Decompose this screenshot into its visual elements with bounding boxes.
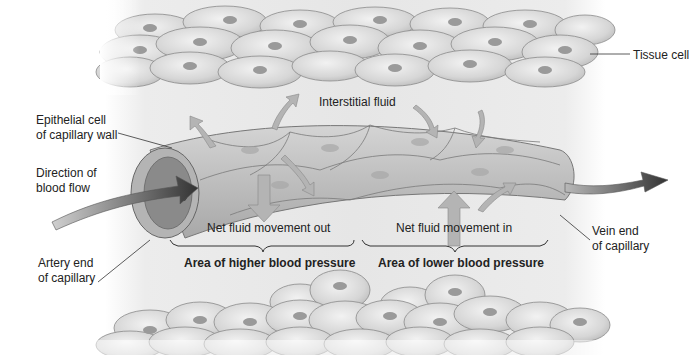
label-direction-line2: blood flow bbox=[36, 181, 90, 195]
label-area-higher-pressure: Area of higher blood pressure bbox=[184, 256, 355, 270]
label-net-fluid-out: Net fluid movement out bbox=[207, 221, 330, 235]
top-tissue-cells bbox=[96, 6, 615, 88]
label-epithelial-cell-line1: Epithelial cell bbox=[36, 113, 106, 127]
label-epithelial-cell-line2: of capillary wall bbox=[36, 128, 117, 142]
label-artery-end-line2: of capillary bbox=[38, 271, 95, 285]
label-area-lower-pressure: Area of lower blood pressure bbox=[378, 256, 544, 270]
label-vein-end-line2: of capillary bbox=[592, 239, 649, 253]
label-artery-end-line1: Artery end bbox=[38, 256, 93, 270]
vein-outflow-arrow bbox=[565, 172, 668, 194]
label-vein-end-line1: Vein end bbox=[592, 224, 639, 238]
label-interstitial-fluid: Interstitial fluid bbox=[319, 95, 396, 109]
label-tissue-cell: Tissue cell bbox=[633, 48, 689, 62]
label-direction-line1: Direction of bbox=[36, 166, 97, 180]
label-net-fluid-in: Net fluid movement in bbox=[396, 221, 512, 235]
pressure-braces bbox=[170, 240, 548, 252]
